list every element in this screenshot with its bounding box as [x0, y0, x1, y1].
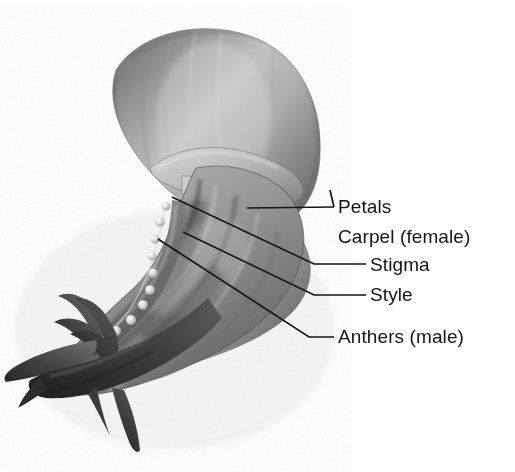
flower-anatomy-figure: Petals Carpel (female) Stigma Style Anth…	[0, 0, 515, 472]
flower-illustration	[4, 26, 335, 452]
label-group: Petals Carpel (female) Stigma Style Anth…	[338, 196, 470, 347]
label-stigma: Stigma	[370, 254, 430, 275]
diagram-canvas: Petals Carpel (female) Stigma Style Anth…	[0, 0, 515, 472]
label-carpel: Carpel (female)	[338, 226, 470, 247]
leader-line-petals-lower	[247, 207, 334, 208]
leader-line-petals-upper	[330, 190, 334, 207]
label-petals: Petals	[338, 196, 391, 217]
label-style: Style	[370, 284, 413, 305]
label-anthers: Anthers (male)	[338, 326, 464, 347]
